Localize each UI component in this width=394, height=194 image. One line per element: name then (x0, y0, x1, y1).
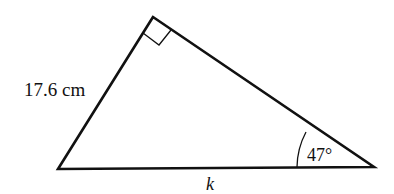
triangle-diagram: 17.6 cm 47° k (0, 0, 394, 194)
base-variable-label: k (206, 175, 214, 193)
angle-arc-47 (297, 132, 306, 167)
side-length-label: 17.6 cm (24, 80, 85, 99)
right-angle-marker (143, 30, 171, 45)
angle-label: 47° (307, 146, 332, 164)
